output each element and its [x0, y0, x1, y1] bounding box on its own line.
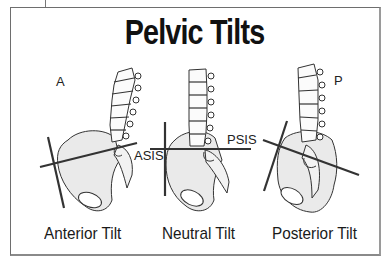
posterior-tilt-caption: Posterior Tilt — [272, 224, 357, 244]
posterior-tilt-figure — [263, 64, 359, 212]
neutral-tilt-caption: Neutral Tilt — [162, 224, 235, 244]
pelvis-illustrations — [0, 0, 389, 259]
anterior-direction-label: A — [56, 74, 65, 89]
anterior-tilt-caption: Anterior Tilt — [44, 224, 121, 244]
posterior-direction-label: P — [334, 73, 343, 88]
anterior-tilt-figure — [40, 68, 141, 211]
psis-label: PSIS — [227, 132, 257, 147]
asis-label: ASIS — [134, 148, 164, 163]
